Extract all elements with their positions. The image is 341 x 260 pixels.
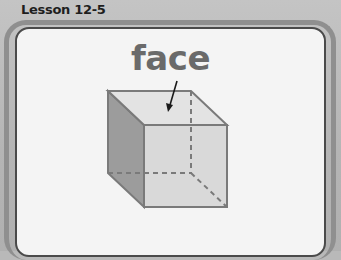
cube-front-face — [144, 125, 227, 207]
